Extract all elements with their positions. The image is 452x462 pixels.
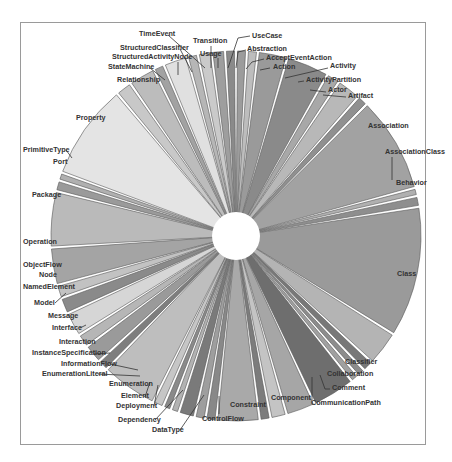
slice-label: Enumeration (109, 379, 153, 388)
slice-label: InstanceSpecification (32, 348, 106, 357)
slice-label: Dependency (118, 415, 161, 424)
slice-label: Abstraction (247, 44, 287, 53)
slice-label: Interface (52, 323, 82, 332)
slice-label: Usage (200, 49, 222, 58)
slice-label: PrimitiveType (23, 145, 70, 154)
slice-label: ObjectFlow (23, 260, 62, 269)
slice-label: DataType (152, 425, 184, 434)
slice-label: ActivityPartition (306, 75, 361, 84)
slice-label: Interaction (59, 337, 96, 346)
slice-label: Actor (328, 85, 347, 94)
slice-label: Message (48, 311, 78, 320)
slice-label: Deployment (116, 401, 158, 410)
slice-label: TimeEvent (139, 29, 176, 38)
slice-label: Classifier (345, 357, 378, 366)
slice-label: CommunicationPath (311, 398, 381, 407)
slice-label: StructuredActivityNode (112, 52, 192, 61)
slice-label: Element (121, 391, 150, 400)
slice-label: AssociationClass (385, 147, 445, 156)
slice-label: EnumerationLiteral (42, 369, 108, 378)
slice-label: Artifact (348, 91, 374, 100)
slice-label: Constraint (230, 400, 267, 409)
slice-label: Port (53, 157, 68, 166)
slice-label: AcceptEventAction (266, 53, 332, 62)
slice-label: Behavior (396, 178, 427, 187)
slice-label: Association (368, 121, 409, 130)
slice-label: Transition (193, 36, 227, 45)
center-hole (212, 212, 260, 260)
slice-label: Class (397, 269, 416, 278)
slice-label: Action (273, 62, 295, 71)
slice-label: Operation (23, 237, 57, 246)
slice-label: StateMachine (108, 62, 154, 71)
slice-label: Collaboration (327, 369, 373, 378)
slice-label: Model (34, 298, 55, 307)
slice-label: Node (39, 270, 57, 279)
slice-label: Property (76, 113, 106, 122)
slice-label: Component (271, 393, 312, 402)
slice-label: Relationship (117, 75, 161, 84)
slice-label: UseCase (252, 31, 282, 40)
slice-label: Comment (332, 383, 366, 392)
slice-label: Package (32, 190, 61, 199)
slice-label: ControlFlow (202, 414, 244, 423)
slice-label: NamedElement (23, 282, 76, 291)
slice-label: InformationFlow (61, 359, 117, 368)
slice-label: StructuredClassifier (120, 43, 189, 52)
exploded-pie-chart: UseCaseAbstractionAcceptEventActionActio… (0, 0, 452, 462)
slice-label: Activity (330, 61, 356, 70)
